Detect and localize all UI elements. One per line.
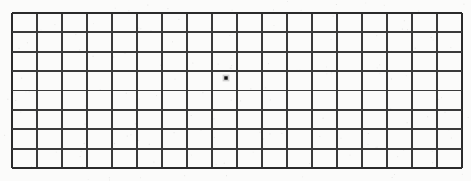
paper-speck [7, 99, 8, 100]
paper-speck [350, 155, 351, 156]
paper-speck [415, 48, 416, 49]
paper-speck [84, 143, 85, 144]
paper-speck [281, 133, 282, 134]
paper-speck [140, 28, 141, 29]
paper-speck [25, 91, 26, 92]
paper-speck [115, 8, 116, 9]
amsler-grid-chart [0, 0, 471, 181]
paper-speck [20, 112, 21, 113]
paper-speck [151, 30, 152, 31]
paper-speck [365, 3, 366, 4]
paper-speck [174, 132, 175, 133]
paper-speck [224, 163, 225, 164]
paper-speck [326, 67, 327, 68]
paper-speck [216, 164, 217, 165]
paper-speck [376, 35, 377, 36]
paper-speck [462, 174, 463, 175]
paper-speck [253, 152, 254, 153]
paper-speck [336, 4, 337, 5]
paper-speck [93, 56, 94, 57]
paper-speck [135, 123, 136, 124]
paper-speck [232, 10, 233, 11]
paper-speck [441, 97, 442, 98]
paper-speck [323, 118, 324, 119]
paper-speck [35, 111, 36, 112]
paper-speck [463, 4, 464, 5]
paper-speck [19, 48, 20, 49]
paper-speck [260, 132, 261, 133]
paper-speck [273, 25, 274, 26]
paper-speck [178, 19, 179, 20]
paper-speck [139, 99, 140, 100]
paper-speck [433, 40, 434, 41]
paper-speck [109, 180, 110, 181]
paper-speck [93, 23, 94, 24]
paper-speck [379, 64, 380, 65]
paper-speck [270, 133, 271, 134]
paper-speck [397, 156, 398, 157]
paper-speck [229, 35, 230, 36]
paper-speck [392, 177, 393, 178]
paper-speck [130, 134, 131, 135]
paper-speck [29, 91, 30, 92]
paper-speck [451, 138, 452, 139]
central-fixation-dot [224, 76, 227, 79]
paper-speck [127, 136, 128, 137]
paper-speck [109, 177, 110, 178]
paper-speck [226, 175, 227, 176]
paper-speck [175, 79, 176, 80]
paper-speck [41, 30, 42, 31]
paper-speck [125, 53, 126, 54]
paper-speck [231, 68, 232, 69]
paper-speck [287, 1, 288, 2]
paper-speck [404, 20, 405, 21]
paper-speck [88, 179, 89, 180]
paper-speck [114, 143, 115, 144]
paper-speck [391, 79, 392, 80]
amsler-grid-svg [0, 0, 471, 181]
paper-speck [309, 163, 310, 164]
paper-speck [331, 39, 332, 40]
paper-speck [231, 100, 232, 101]
paper-speck [172, 41, 173, 42]
paper-speck [80, 156, 81, 157]
paper-speck [15, 100, 16, 101]
paper-speck [126, 93, 127, 94]
paper-speck [445, 112, 446, 113]
paper-speck [21, 78, 22, 79]
paper-speck [427, 116, 428, 117]
paper-speck [192, 63, 193, 64]
paper-speck [160, 65, 161, 66]
paper-speck [333, 16, 334, 17]
paper-speck [167, 8, 168, 9]
paper-speck [432, 162, 433, 163]
paper-speck [431, 37, 432, 38]
paper-speck [113, 57, 114, 58]
paper-speck [331, 72, 332, 73]
paper-speck [265, 87, 266, 88]
paper-speck [214, 137, 215, 138]
paper-speck [75, 34, 76, 35]
paper-speck [377, 147, 378, 148]
paper-speck [379, 73, 380, 74]
paper-speck [407, 122, 408, 123]
paper-speck [377, 67, 378, 68]
paper-speck [156, 95, 157, 96]
paper-speck [27, 42, 28, 43]
paper-speck [4, 135, 5, 136]
paper-speck [319, 136, 320, 137]
paper-speck [184, 175, 185, 176]
paper-speck [218, 64, 219, 65]
paper-speck [403, 150, 404, 151]
paper-speck [326, 73, 327, 74]
paper-speck [54, 24, 55, 25]
paper-speck [368, 133, 369, 134]
paper-speck [14, 92, 15, 93]
paper-speck [368, 144, 369, 145]
paper-speck [153, 162, 154, 163]
paper-speck [438, 99, 439, 100]
paper-speck [468, 117, 469, 118]
paper-speck [147, 5, 148, 6]
paper-speck [394, 174, 395, 175]
paper-speck [301, 10, 302, 11]
